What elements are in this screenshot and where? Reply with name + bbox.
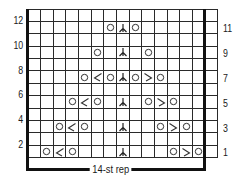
chart-cell bbox=[205, 83, 218, 96]
chart-cell bbox=[167, 108, 180, 121]
yarn-over-icon bbox=[66, 96, 79, 108]
chart-cell bbox=[53, 59, 66, 72]
repeat-bracket-left bbox=[26, 9, 29, 170]
chart-cell bbox=[180, 34, 193, 47]
chart-cell bbox=[41, 46, 54, 59]
chart-cell bbox=[167, 46, 180, 59]
yarn-over-icon bbox=[53, 121, 66, 133]
chart-cell bbox=[142, 59, 155, 72]
chart-cell bbox=[28, 83, 41, 96]
yarn-over-icon bbox=[155, 71, 168, 83]
chart-cell bbox=[91, 21, 104, 34]
chart-cell bbox=[205, 46, 218, 59]
chart-cell bbox=[117, 9, 130, 22]
chart-cell bbox=[104, 83, 117, 96]
chart-cell bbox=[167, 9, 180, 22]
chart-cell bbox=[91, 34, 104, 47]
yarn-over-icon bbox=[79, 121, 92, 133]
chart-cell bbox=[53, 133, 66, 146]
chart-cell bbox=[142, 21, 155, 34]
chart-cell bbox=[129, 83, 142, 96]
chart-cell bbox=[205, 121, 218, 134]
chart-cell bbox=[91, 9, 104, 22]
chart-cell bbox=[104, 59, 117, 72]
chart-cell bbox=[41, 83, 54, 96]
chart-cell bbox=[41, 121, 54, 134]
chart-cell bbox=[79, 133, 92, 146]
chart-cell bbox=[79, 34, 92, 47]
chart-cell bbox=[205, 21, 218, 34]
chart-cell bbox=[104, 46, 117, 59]
chart-cell bbox=[66, 71, 79, 84]
yarn-over-icon bbox=[167, 96, 180, 108]
chart-cell bbox=[129, 145, 142, 158]
row-label-left: 10 bbox=[13, 40, 23, 51]
yarn-over-icon bbox=[180, 121, 193, 133]
double-decrease-icon bbox=[117, 71, 130, 83]
chart-cell bbox=[117, 34, 130, 47]
chart-cell bbox=[104, 9, 117, 22]
row-label-left: 6 bbox=[18, 89, 23, 100]
chart-cell bbox=[117, 108, 130, 121]
chart-cell bbox=[205, 9, 218, 22]
chart-cell bbox=[79, 46, 92, 59]
chart-cell bbox=[66, 21, 79, 34]
chart-cell bbox=[129, 96, 142, 109]
k2tog-icon bbox=[66, 121, 79, 133]
chart-cell bbox=[167, 21, 180, 34]
chart-cell bbox=[41, 96, 54, 109]
chart-cell bbox=[180, 9, 193, 22]
chart-cell bbox=[155, 34, 168, 47]
chart-cell bbox=[53, 21, 66, 34]
chart-cell bbox=[28, 9, 41, 22]
yarn-over-icon bbox=[129, 21, 142, 33]
ssk-icon bbox=[155, 96, 168, 108]
chart-cell bbox=[66, 34, 79, 47]
chart-cell bbox=[155, 9, 168, 22]
chart-cell bbox=[79, 83, 92, 96]
chart-cell bbox=[205, 59, 218, 72]
chart-cell bbox=[180, 71, 193, 84]
chart-cell bbox=[129, 9, 142, 22]
chart-cell bbox=[117, 83, 130, 96]
chart-cell bbox=[104, 108, 117, 121]
row-label-left: 4 bbox=[18, 114, 23, 125]
chart-cell bbox=[66, 83, 79, 96]
chart-cell bbox=[28, 46, 41, 59]
repeat-bracket-right bbox=[203, 9, 206, 170]
yarn-over-icon bbox=[91, 96, 104, 108]
ssk-icon bbox=[167, 121, 180, 133]
chart-cell bbox=[167, 133, 180, 146]
chart-cell bbox=[129, 121, 142, 134]
double-decrease-icon bbox=[117, 46, 130, 58]
chart-cell bbox=[53, 46, 66, 59]
chart-cell bbox=[155, 21, 168, 34]
chart-cell bbox=[41, 71, 54, 84]
knitting-chart: 246810121357911 14-st rep bbox=[0, 0, 252, 190]
yarn-over-icon bbox=[104, 71, 117, 83]
chart-cell bbox=[167, 83, 180, 96]
chart-cell bbox=[53, 83, 66, 96]
chart-cell bbox=[129, 59, 142, 72]
row-label-right: 5 bbox=[223, 98, 228, 109]
chart-cell bbox=[53, 71, 66, 84]
chart-cell bbox=[180, 96, 193, 109]
chart-cell bbox=[117, 133, 130, 146]
chart-cell bbox=[180, 108, 193, 121]
chart-cell bbox=[66, 59, 79, 72]
chart-cell bbox=[142, 133, 155, 146]
row-label-right: 1 bbox=[223, 147, 228, 158]
row-label-right: 11 bbox=[223, 23, 232, 34]
chart-cell bbox=[155, 145, 168, 158]
chart-cell bbox=[129, 34, 142, 47]
chart-cell bbox=[91, 83, 104, 96]
chart-cell bbox=[28, 21, 41, 34]
chart-cell bbox=[53, 108, 66, 121]
double-decrease-icon bbox=[117, 96, 130, 108]
chart-cell bbox=[41, 108, 54, 121]
chart-cell bbox=[28, 121, 41, 134]
chart-cell bbox=[155, 46, 168, 59]
chart-cell bbox=[91, 145, 104, 158]
row-label-right: 9 bbox=[223, 48, 228, 59]
double-decrease-icon bbox=[117, 21, 130, 33]
